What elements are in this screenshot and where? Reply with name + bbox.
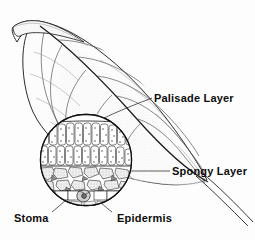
palisade-row-2 <box>40 146 132 165</box>
label-epidermis: Epidermis <box>117 212 172 224</box>
label-stoma: Stoma <box>14 212 49 224</box>
leaf-blade <box>12 21 253 226</box>
leaf-anatomy-figure: Palisade Layer Spongy Layer Stoma Epider… <box>0 0 255 240</box>
label-palisade-layer: Palisade Layer <box>154 92 234 104</box>
label-spongy-layer: Spongy Layer <box>172 165 248 177</box>
magnified-cross-section <box>39 114 133 207</box>
stoma <box>77 190 90 202</box>
palisade-layer <box>40 123 133 165</box>
leaf-diagram-svg: Palisade Layer Spongy Layer Stoma Epider… <box>0 0 255 240</box>
